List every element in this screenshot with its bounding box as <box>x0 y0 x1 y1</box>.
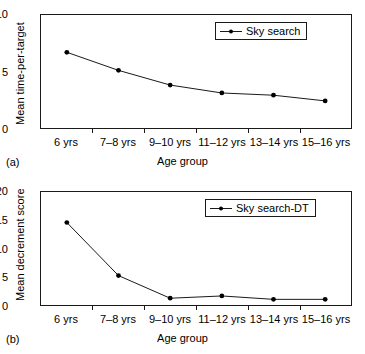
data-point: 9–10 yrs: 3.8 <box>168 83 173 88</box>
data-point: 7–8 yrs: 5.1 <box>116 68 121 73</box>
y-axis-label-b: Mean decrement score <box>14 189 26 302</box>
y-tick-label: 5 <box>0 272 8 282</box>
x-tick-label: 6 yrs <box>40 313 92 325</box>
y-tick-label: 5 <box>0 67 8 77</box>
data-point: 6 yrs: 14.6 <box>64 220 69 225</box>
data-point: 11–12 yrs: 3.1 <box>219 91 224 96</box>
x-tick-label: 11–12 yrs <box>196 136 248 148</box>
x-tick-mark <box>300 306 301 310</box>
x-axis-title-a: Age group <box>0 155 365 167</box>
data-point: 11–12 yrs: 1.6 <box>219 294 224 299</box>
x-tick-label: 7–8 yrs <box>92 136 144 148</box>
x-tick-mark <box>144 129 145 133</box>
x-tick-mark <box>196 306 197 310</box>
series-line <box>67 52 325 101</box>
legend-label-a: Sky search <box>246 25 300 37</box>
x-tick-mark <box>92 129 93 133</box>
data-point: 6 yrs: 6.7 <box>64 50 69 55</box>
x-tick-label: 7–8 yrs <box>92 313 144 325</box>
data-point: 7–8 yrs: 5.2 <box>116 273 121 278</box>
x-tick-mark <box>144 306 145 310</box>
x-axis-title-b: Age group <box>0 332 365 344</box>
x-tick-label: 15–16 yrs <box>300 313 352 325</box>
y-tick-label: 20 <box>0 186 8 196</box>
data-point: 15–16 yrs: 2.4 <box>323 99 328 104</box>
x-tick-mark <box>196 129 197 133</box>
data-point: 15–16 yrs: 1 <box>323 297 328 302</box>
x-tick-label: 9–10 yrs <box>144 313 196 325</box>
data-point: 13–14 yrs: 1 <box>271 297 276 302</box>
x-tick-label: 6 yrs <box>40 136 92 148</box>
legend-a: Sky search <box>215 22 307 40</box>
y-tick-label: 10 <box>0 9 8 19</box>
x-tick-label: 15–16 yrs <box>300 136 352 148</box>
data-point: 9–10 yrs: 1.2 <box>168 296 173 301</box>
x-tick-label: 11–12 yrs <box>196 313 248 325</box>
legend-line-marker-icon <box>220 27 242 36</box>
data-point: 13–14 yrs: 2.9 <box>271 93 276 98</box>
panel-tag-a: (a) <box>6 156 19 168</box>
x-tick-label: 9–10 yrs <box>144 136 196 148</box>
y-tick-label: 0 <box>0 301 8 311</box>
chart-panel-a: Mean time-per-target 0510 6 yrs: 6.77–8 … <box>0 0 365 177</box>
y-tick-label: 15 <box>0 215 8 225</box>
x-tick-mark <box>248 306 249 310</box>
x-tick-mark <box>248 129 249 133</box>
x-tick-mark <box>300 129 301 133</box>
panel-tag-b: (b) <box>6 333 19 345</box>
legend-label-b: Sky search-DT <box>236 202 309 214</box>
x-tick-mark <box>92 306 93 310</box>
y-tick-label: 0 <box>0 124 8 134</box>
series-line <box>67 223 325 300</box>
y-tick-label: 10 <box>0 244 8 254</box>
legend-line-marker-icon <box>210 204 232 213</box>
chart-panel-b: Mean decrement score 05101520 6 yrs: 14.… <box>0 177 365 354</box>
x-tick-label: 13–14 yrs <box>248 136 300 148</box>
legend-b: Sky search-DT <box>205 199 316 217</box>
y-axis-label-a: Mean time-per-target <box>14 22 26 125</box>
x-tick-label: 13–14 yrs <box>248 313 300 325</box>
